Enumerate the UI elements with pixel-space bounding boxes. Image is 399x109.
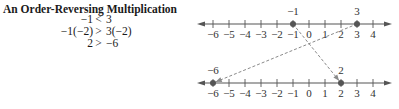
mapping-arrowhead-icon [216,77,222,82]
tick-label: 3 [354,87,360,99]
arrow-left-icon [197,81,205,86]
point-label: 2 [338,64,344,76]
tick-label: 2 [338,87,344,99]
mapping-dashed-arrow [293,24,341,83]
number-lines-diagram: −6−5−4−3−2−101234−13−6−5−4−3−2−101234−62 [0,0,399,109]
plotted-point [290,21,296,27]
tick-label: −2 [271,87,283,99]
point-label: −1 [287,5,299,17]
tick-label: −3 [255,28,267,40]
tick-label: −4 [239,87,251,99]
arrow-right-icon [384,81,392,86]
tick-label: 2 [338,28,344,40]
tick-label: −1 [287,28,299,40]
tick-label: 4 [370,28,376,40]
tick-label: 4 [370,87,376,99]
tick-label: −4 [239,28,251,40]
tick-label: 1 [322,28,328,40]
tick-label: −5 [223,28,235,40]
tick-label: 0 [306,87,312,99]
tick-label: −5 [223,87,235,99]
point-label: −6 [207,64,219,76]
plotted-point [210,80,216,86]
plotted-point [338,80,344,86]
tick-label: 0 [306,28,312,40]
tick-label: −1 [287,87,299,99]
arrow-left-icon [197,22,205,27]
tick-label: −6 [207,87,219,99]
tick-label: 3 [354,28,360,40]
tick-label: 1 [322,87,328,99]
arrow-right-icon [384,22,392,27]
tick-label: −3 [255,87,267,99]
plotted-point [354,21,360,27]
tick-label: −6 [207,28,219,40]
tick-label: −2 [271,28,283,40]
point-label: 3 [354,5,360,17]
